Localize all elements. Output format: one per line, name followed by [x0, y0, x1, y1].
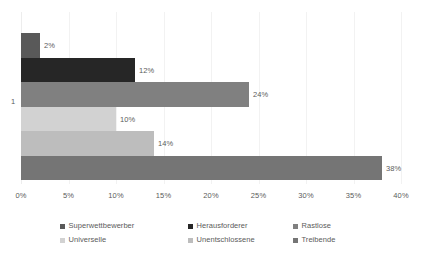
legend-item[interactable]: Herausforderer [188, 222, 293, 230]
bar-value-label: 38% [386, 163, 401, 172]
x-axis-tick-label: 0% [15, 191, 26, 200]
legend-swatch-icon [188, 238, 193, 243]
x-axis-tick-label: 15% [156, 191, 171, 200]
y-axis-category-label: 1 [11, 98, 15, 106]
legend-item[interactable]: Universelle [60, 236, 188, 244]
x-axis-tick-label: 40% [393, 191, 408, 200]
bar[interactable] [21, 131, 154, 156]
x-axis-tick-label: 30% [298, 191, 313, 200]
bar[interactable] [21, 156, 382, 181]
legend-swatch-icon [293, 224, 298, 229]
bar[interactable] [21, 107, 116, 132]
gridline [401, 12, 402, 184]
legend-row: UniverselleUnentschlosseneTreibende [60, 233, 370, 247]
legend-swatch-icon [293, 238, 298, 243]
bars-layer: 2%12%24%10%14%38% [21, 33, 401, 180]
bar-row: 10% [21, 107, 401, 132]
bar-value-label: 2% [44, 41, 55, 50]
legend-swatch-icon [188, 224, 193, 229]
legend-label: Treibende [302, 236, 336, 244]
bar[interactable] [21, 33, 40, 58]
bar[interactable] [21, 82, 249, 107]
legend-item[interactable]: Treibende [293, 236, 370, 244]
legend-row: SuperwettbewerberHerausfordererRastlose [60, 219, 370, 233]
x-axis-tick-labels: 0%5%10%15%20%25%30%35%40% [21, 191, 401, 205]
x-axis-tick-label: 10% [108, 191, 123, 200]
bar-value-label: 10% [120, 114, 135, 123]
x-axis-tick-label: 25% [251, 191, 266, 200]
bar-value-label: 24% [253, 90, 268, 99]
bar-row: 14% [21, 131, 401, 156]
chart-legend: SuperwettbewerberHerausfordererRastloseU… [60, 219, 370, 247]
legend-label: Herausforderer [197, 222, 248, 230]
bar-row: 12% [21, 58, 401, 83]
bar-value-label: 14% [158, 139, 173, 148]
bar[interactable] [21, 58, 135, 83]
bar-row: 2% [21, 33, 401, 58]
legend-swatch-icon [60, 224, 65, 229]
legend-item[interactable]: Unentschlossene [188, 236, 293, 244]
x-axis-tick-label: 20% [203, 191, 218, 200]
legend-label: Rastlose [302, 222, 332, 230]
legend-item[interactable]: Superwettbewerber [60, 222, 188, 230]
legend-label: Universelle [69, 236, 107, 244]
bar-chart: 2%12%24%10%14%38% 1 0%5%10%15%20%25%30%3… [0, 0, 423, 260]
legend-item[interactable]: Rastlose [293, 222, 370, 230]
bar-row: 38% [21, 156, 401, 181]
bar-row: 24% [21, 82, 401, 107]
legend-swatch-icon [60, 238, 65, 243]
legend-label: Unentschlossene [197, 236, 255, 244]
x-axis-tick-label: 35% [346, 191, 361, 200]
x-axis-tick-label: 5% [63, 191, 74, 200]
bar-value-label: 12% [139, 65, 154, 74]
legend-label: Superwettbewerber [69, 222, 135, 230]
